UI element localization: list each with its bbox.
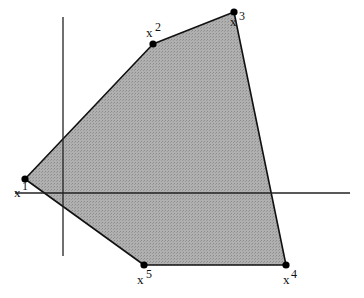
label-x3-base: x [230, 14, 237, 29]
label-x4-base: x [283, 272, 290, 287]
label-x1-sup: 1 [22, 179, 28, 193]
label-x1-base: x [14, 185, 21, 200]
label-x4-sup: 4 [291, 267, 297, 281]
label-x4: x 4 [283, 267, 297, 287]
label-x2-base: x [146, 25, 153, 40]
vertex-x4-point [282, 261, 289, 268]
polygon-region [25, 12, 286, 265]
label-x5: x 5 [137, 267, 152, 287]
label-x5-base: x [137, 272, 144, 287]
polygon-diagram: x 1 x 2 x 3 x 4 x 5 [0, 0, 364, 298]
label-x2: x 2 [146, 20, 161, 40]
label-x2-sup: 2 [155, 20, 161, 34]
vertex-x2-point [149, 40, 156, 47]
label-x1: x 1 [14, 179, 28, 200]
label-x3-sup: 3 [239, 9, 245, 23]
label-x5-sup: 5 [146, 267, 152, 281]
